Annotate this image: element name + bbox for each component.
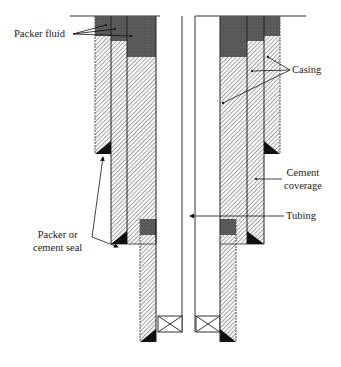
label-cement-line2: coverage xyxy=(284,179,322,192)
tubing xyxy=(158,16,220,332)
label-cement-line1: Cement xyxy=(284,166,322,179)
label-seal-line2: cement seal xyxy=(33,241,82,254)
label-tubing: Tubing xyxy=(286,209,316,222)
label-casing: Casing xyxy=(292,63,321,76)
label-seal-line1: Packer or xyxy=(33,228,82,241)
label-packer-seal: Packer or cement seal xyxy=(33,228,82,254)
left-annulus xyxy=(95,16,156,342)
label-packer-fluid: Packer fluid xyxy=(14,27,65,40)
label-cement-coverage: Cement coverage xyxy=(284,166,322,192)
